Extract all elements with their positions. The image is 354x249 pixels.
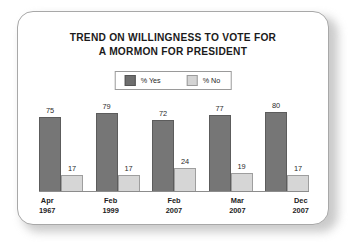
bar-group: 72 24 bbox=[152, 100, 196, 192]
x-tick-month: Apr bbox=[39, 196, 55, 206]
bar-group: 80 17 bbox=[265, 100, 309, 192]
x-tick-label: Apr 1967 bbox=[39, 196, 55, 215]
bar-value: 80 bbox=[272, 102, 280, 110]
chart-title-line-1: TREND ON WILLINGNESS TO VOTE FOR bbox=[18, 31, 328, 45]
chart-title-line-2: A MORMON FOR PRESIDENT bbox=[18, 45, 328, 59]
bar-wrap-yes: 75 bbox=[39, 117, 61, 192]
legend-swatch-no-icon bbox=[187, 75, 198, 86]
x-tick-month: Mar bbox=[229, 196, 245, 206]
x-axis-baseline bbox=[39, 191, 309, 192]
bar-value: 17 bbox=[294, 165, 302, 173]
x-tick-year: 1999 bbox=[102, 206, 118, 216]
bar-yes bbox=[209, 115, 231, 192]
bar-value: 75 bbox=[46, 107, 54, 115]
bar-yes bbox=[265, 112, 287, 192]
bar-wrap-no: 19 bbox=[231, 173, 253, 192]
bar-value: 19 bbox=[237, 163, 245, 171]
bar-yes bbox=[39, 117, 61, 192]
bar-no bbox=[61, 175, 83, 192]
legend-swatch-yes-icon bbox=[125, 75, 136, 86]
chart-legend: % Yes % No bbox=[115, 71, 232, 90]
x-tick-label: Feb 1999 bbox=[102, 196, 118, 215]
x-tick-label: Mar 2007 bbox=[229, 196, 245, 215]
bar-yes bbox=[96, 113, 118, 192]
chart-title: TREND ON WILLINGNESS TO VOTE FOR A MORMO… bbox=[18, 31, 328, 58]
bar-value: 79 bbox=[102, 103, 110, 111]
bar-wrap-no: 17 bbox=[287, 175, 309, 192]
x-tick-month: Feb bbox=[102, 196, 118, 206]
bar-wrap-no: 24 bbox=[174, 168, 196, 192]
bar-wrap-yes: 72 bbox=[152, 120, 174, 192]
bar-wrap-no: 17 bbox=[61, 175, 83, 192]
legend-item-no: % No bbox=[187, 75, 221, 86]
bar-wrap-yes: 77 bbox=[209, 115, 231, 192]
x-axis-labels: Apr 1967 Feb 1999 Feb 2007 Mar 2007 Dec … bbox=[39, 196, 309, 215]
x-tick-label: Dec 2007 bbox=[293, 196, 309, 215]
bar-value: 17 bbox=[124, 165, 132, 173]
x-tick-year: 2007 bbox=[229, 206, 245, 216]
plot-area: 75 17 79 17 bbox=[39, 100, 309, 192]
bar-yes bbox=[152, 120, 174, 192]
bar-groups: 75 17 79 17 bbox=[39, 100, 309, 192]
bar-value: 17 bbox=[68, 165, 76, 173]
legend-item-yes: % Yes bbox=[125, 75, 161, 86]
chart-card: TREND ON WILLINGNESS TO VOTE FOR A MORMO… bbox=[17, 11, 329, 225]
x-tick-year: 2007 bbox=[293, 206, 309, 216]
bar-value: 72 bbox=[159, 110, 167, 118]
bar-no bbox=[231, 173, 253, 192]
x-tick-year: 1967 bbox=[39, 206, 55, 216]
bar-group: 75 17 bbox=[39, 100, 83, 192]
legend-label-yes: % Yes bbox=[141, 76, 161, 85]
bar-no bbox=[287, 175, 309, 192]
bar-no bbox=[118, 175, 140, 192]
legend-label-no: % No bbox=[203, 76, 221, 85]
chart-page: TREND ON WILLINGNESS TO VOTE FOR A MORMO… bbox=[0, 0, 354, 249]
x-tick-month: Dec bbox=[293, 196, 309, 206]
x-tick-month: Feb bbox=[166, 196, 182, 206]
x-tick-label: Feb 2007 bbox=[166, 196, 182, 215]
bar-wrap-yes: 80 bbox=[265, 112, 287, 192]
bar-wrap-yes: 79 bbox=[96, 113, 118, 192]
bar-value: 77 bbox=[215, 105, 223, 113]
bar-value: 24 bbox=[181, 158, 189, 166]
x-tick-year: 2007 bbox=[166, 206, 182, 216]
bar-group: 79 17 bbox=[96, 100, 140, 192]
bar-wrap-no: 17 bbox=[118, 175, 140, 192]
bar-group: 77 19 bbox=[209, 100, 253, 192]
bar-no bbox=[174, 168, 196, 192]
